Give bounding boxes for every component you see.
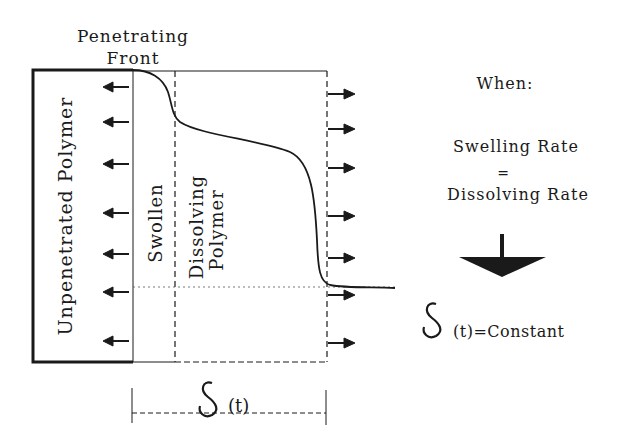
swelling-rate-label: Swelling Rate	[453, 137, 579, 156]
right-arrow-icon	[328, 211, 355, 221]
delta-icon	[200, 382, 217, 416]
left-arrow-icon	[103, 82, 129, 92]
penetrating-label-line1: Penetrating	[77, 26, 189, 46]
left-arrow-icon	[103, 287, 129, 297]
left-arrow-icon	[103, 336, 129, 346]
unpenetrated-region-outline	[33, 70, 133, 362]
right-arrow-icon	[328, 124, 355, 134]
swollen-label: Swollen	[145, 183, 166, 262]
dissolving-label-line2: Polymer	[206, 189, 227, 270]
delta-dimension: (t)	[132, 382, 326, 425]
result-expression: (t)=Constant	[424, 303, 565, 341]
left-arrow-icon	[103, 117, 129, 127]
right-arrow-icon	[328, 163, 355, 173]
constant-label: (t)=Constant	[453, 322, 564, 341]
polymer-dissolution-diagram: Penetrating Front Unpenetrated Polymer S…	[0, 0, 635, 443]
concentration-profile-curve	[133, 70, 395, 288]
right-arrow-icon	[328, 338, 355, 348]
delta-arg: (t)	[228, 395, 249, 416]
left-arrow-icon	[103, 159, 129, 169]
equals-sign: =	[497, 165, 509, 181]
left-arrow-icon	[103, 249, 129, 259]
right-arrow-icon	[328, 253, 355, 263]
left-arrows	[103, 82, 129, 346]
implies-arrow-icon	[459, 234, 546, 277]
unpenetrated-polymer-label: Unpenetrated Polymer	[54, 97, 76, 336]
when-label: When:	[477, 74, 534, 93]
right-arrow-icon	[328, 89, 355, 99]
dissolving-rate-label: Dissolving Rate	[447, 185, 589, 204]
penetrating-label-line2: Front	[107, 48, 160, 68]
left-arrow-icon	[103, 208, 129, 218]
delta-icon	[424, 303, 441, 337]
right-arrow-icon	[328, 290, 355, 300]
dissolving-label-line1: Dissolving	[186, 175, 207, 279]
right-arrows	[328, 89, 355, 348]
